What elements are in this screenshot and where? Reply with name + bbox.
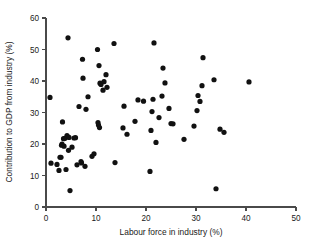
data-point xyxy=(96,63,101,68)
data-point xyxy=(150,97,155,102)
data-point xyxy=(151,40,156,45)
y-tick-label: 30 xyxy=(30,109,40,118)
y-tick-label: 40 xyxy=(30,77,40,86)
data-point xyxy=(112,160,117,165)
data-point xyxy=(132,119,137,124)
plot-canvas: 0102030405060 01020304050 Labour force i… xyxy=(0,0,315,243)
data-point xyxy=(153,140,158,145)
data-point xyxy=(213,186,218,191)
data-point xyxy=(60,119,65,124)
x-tick-label: 50 xyxy=(291,214,301,223)
data-point xyxy=(156,115,161,120)
data-point xyxy=(104,85,109,90)
data-point xyxy=(65,35,70,40)
data-point xyxy=(80,76,85,81)
y-tick-label: 0 xyxy=(34,203,39,212)
y-tick-label: 60 xyxy=(30,14,40,23)
data-point xyxy=(149,109,154,114)
data-point xyxy=(82,164,87,169)
y-tick-label: 50 xyxy=(30,46,40,55)
data-point xyxy=(83,107,88,112)
data-point xyxy=(48,161,53,166)
y-tick-label: 20 xyxy=(30,140,40,149)
data-point xyxy=(162,80,167,85)
data-point xyxy=(159,94,164,99)
data-point xyxy=(181,137,186,142)
y-axis-ticks: 0102030405060 xyxy=(30,14,46,212)
x-tick-label: 0 xyxy=(44,214,49,223)
data-point xyxy=(197,99,202,104)
data-point xyxy=(135,97,140,102)
x-axis-ticks: 01020304050 xyxy=(44,207,301,223)
data-point xyxy=(221,130,226,135)
data-point xyxy=(160,65,165,70)
data-point xyxy=(211,77,216,82)
data-point xyxy=(199,83,204,88)
data-point xyxy=(63,167,68,172)
data-point xyxy=(91,151,96,156)
data-point xyxy=(246,79,251,84)
data-point xyxy=(111,41,116,46)
scatter-plot-figure: 0102030405060 01020304050 Labour force i… xyxy=(0,0,315,243)
data-point xyxy=(67,188,72,193)
data-point xyxy=(103,72,108,77)
axes-group xyxy=(46,18,296,207)
data-point xyxy=(56,168,61,173)
data-point xyxy=(120,125,125,130)
data-point xyxy=(73,135,78,140)
x-tick-label: 20 xyxy=(141,214,151,223)
data-point xyxy=(61,144,66,149)
data-point xyxy=(85,94,90,99)
data-point xyxy=(76,104,81,109)
data-point xyxy=(200,55,205,60)
y-tick-label: 10 xyxy=(30,172,40,181)
data-point xyxy=(141,99,146,104)
data-point xyxy=(124,132,129,137)
x-tick-label: 40 xyxy=(241,214,251,223)
data-point xyxy=(101,79,106,84)
data-point xyxy=(95,47,100,52)
data-point xyxy=(80,57,85,62)
data-point xyxy=(170,121,175,126)
data-point xyxy=(97,125,102,130)
data-point xyxy=(195,93,200,98)
data-point xyxy=(147,169,152,174)
data-points-group xyxy=(47,35,251,193)
data-point xyxy=(194,108,199,113)
x-tick-label: 10 xyxy=(91,214,101,223)
y-axis-title: Contribution to GDP from industry (%) xyxy=(4,41,14,182)
data-point xyxy=(47,95,52,100)
data-point xyxy=(54,162,59,167)
data-point xyxy=(191,123,196,128)
data-point xyxy=(148,128,153,133)
data-point xyxy=(121,104,126,109)
x-tick-label: 30 xyxy=(191,214,201,223)
data-point xyxy=(58,155,63,160)
data-point xyxy=(69,145,74,150)
x-axis-title: Labour force in industry (%) xyxy=(120,227,223,237)
data-point xyxy=(66,135,71,140)
data-point xyxy=(166,106,171,111)
